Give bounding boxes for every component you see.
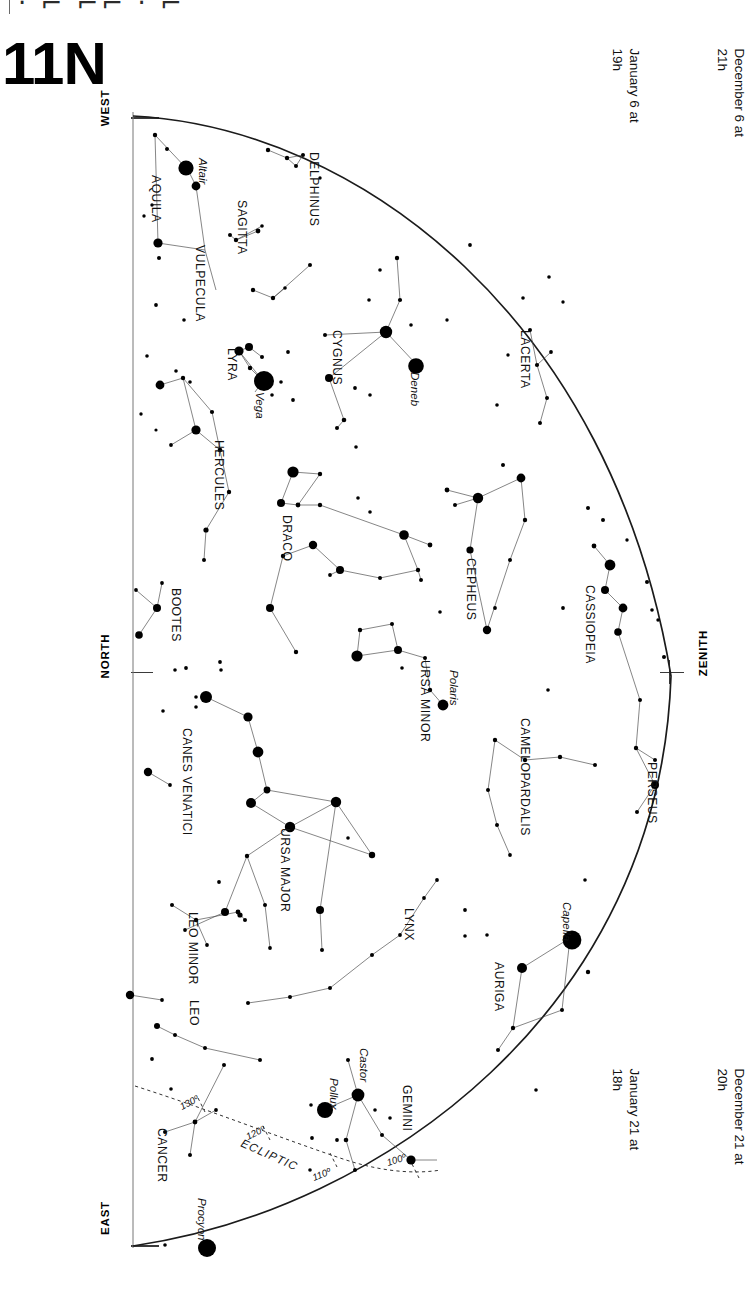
constellation-lines-cepheus bbox=[447, 478, 525, 630]
constellation-label-lyra: LYRA bbox=[225, 348, 239, 381]
ecliptic-tick-110 bbox=[330, 1153, 337, 1167]
constellation-label-aquila: AQUILA bbox=[149, 175, 163, 223]
star-chart-page: · ⌐ ⌐⌐ · ⌐ 11N September 6 at 3h October… bbox=[0, 0, 750, 1313]
constellation-labels: AQUILA SAGITTA DELPHINUS VULPECULA LYRA … bbox=[149, 152, 659, 1182]
star-label-capella: Capella bbox=[561, 902, 574, 942]
constellation-lines-lynx bbox=[248, 880, 437, 1003]
constellation-label-perseus: PERSEUS bbox=[645, 762, 659, 824]
constellation-label-canes-venatici: CANES VENATICI bbox=[180, 728, 194, 836]
constellation-lines-canes-venatici bbox=[130, 772, 170, 1000]
constellation-label-camelopardalis: CAMELOPARDALIS bbox=[518, 718, 532, 836]
constellation-label-draco: DRACO bbox=[280, 515, 294, 562]
constellation-lines-vulpecula bbox=[253, 265, 310, 298]
constellation-lines-leo-minor bbox=[172, 905, 245, 945]
constellation-label-ursa-minor: URSA MINOR bbox=[418, 660, 432, 742]
constellation-label-lacerta: LACERTA bbox=[518, 330, 532, 389]
star-label-vega: Vega bbox=[254, 392, 267, 419]
constellation-label-auriga: AURIGA bbox=[492, 962, 506, 1012]
star-label-pollux: Pollux bbox=[328, 1078, 341, 1111]
constellation-label-leo-minor: LEO MINOR bbox=[186, 912, 200, 985]
constellation-label-gemini: GEMINI bbox=[400, 1085, 414, 1131]
constellation-label-bootes: BOOTES bbox=[169, 588, 183, 642]
sky-map: AQUILA SAGITTA DELPHINUS VULPECULA LYRA … bbox=[0, 0, 750, 1313]
star-label-castor: Castor bbox=[358, 1048, 371, 1083]
star-label-polaris: Polaris bbox=[448, 670, 461, 706]
constellation-label-cancer: CANCER bbox=[155, 1128, 169, 1182]
ecliptic-tick-label-110: 110º bbox=[311, 1165, 333, 1182]
constellation-label-sagitta: SAGITTA bbox=[235, 200, 249, 255]
constellation-label-leo: LEO bbox=[187, 1000, 201, 1026]
ecliptic-tick-label-130: 130º bbox=[178, 1093, 201, 1112]
ecliptic-label: ECLIPTIC bbox=[239, 1137, 300, 1173]
constellation-lines-draco bbox=[270, 472, 430, 652]
constellation-label-delphinus: DELPHINUS bbox=[307, 152, 321, 226]
constellation-label-vulpecula: VULPECULA bbox=[193, 245, 207, 322]
ecliptic-tick-100 bbox=[412, 1164, 419, 1178]
star-label-deneb: Deneb bbox=[409, 372, 422, 407]
constellation-label-hercules: HERCULES bbox=[212, 440, 226, 510]
constellation-lines-gemini bbox=[323, 1060, 437, 1170]
constellation-label-cassiopeia: CASSIOPEIA bbox=[583, 585, 597, 664]
ecliptic-tick-label-100: 100º bbox=[385, 1151, 407, 1168]
constellation-label-ursa-major: URSA MAJOR bbox=[278, 828, 292, 912]
horizon-dome-arc bbox=[133, 116, 671, 1246]
constellation-lines-camelopardalis bbox=[488, 740, 595, 855]
star-label-altair: Altair bbox=[197, 157, 210, 186]
constellation-lines-leo bbox=[157, 1026, 260, 1060]
star-label-procyon: Procyon bbox=[196, 1198, 209, 1241]
star-name-labels: Altair Vega Deneb Polaris Capella Castor… bbox=[196, 157, 574, 1241]
constellation-label-cepheus: CEPHEUS bbox=[464, 558, 478, 620]
constellation-label-lynx: LYNX bbox=[402, 908, 416, 941]
constellation-label-cygnus: CYGNUS bbox=[330, 330, 344, 385]
constellation-lines-auriga bbox=[498, 938, 570, 1050]
